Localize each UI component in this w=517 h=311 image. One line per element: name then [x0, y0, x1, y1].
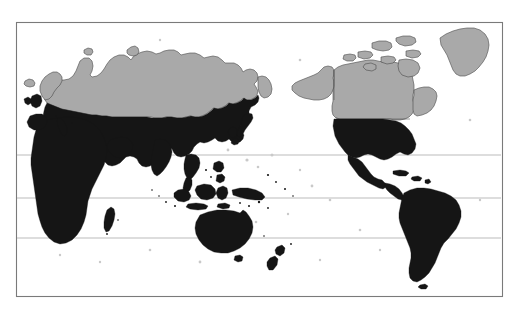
region-arctic-island-1	[372, 41, 392, 51]
faint-speck	[299, 59, 302, 62]
page-root	[0, 0, 517, 311]
island-speck	[210, 176, 212, 178]
world-map-svg	[0, 0, 517, 311]
island-speck	[267, 207, 269, 209]
faint-speck	[255, 221, 258, 224]
island-speck	[284, 188, 286, 190]
faint-speck	[149, 249, 152, 252]
faint-speck	[199, 261, 202, 264]
island-speck	[71, 122, 73, 124]
faint-speck	[227, 149, 230, 152]
region-philippines-1	[213, 161, 224, 172]
island-speck	[158, 195, 160, 197]
region-iberia	[27, 114, 47, 130]
faint-speck	[257, 166, 260, 169]
faint-speck	[379, 249, 381, 251]
faint-speck	[59, 254, 61, 256]
island-speck	[165, 201, 167, 203]
faint-speck	[299, 169, 301, 171]
island-speck	[258, 201, 260, 203]
island-speck	[292, 195, 294, 197]
island-speck	[267, 174, 269, 176]
region-sulawesi	[216, 186, 228, 200]
faint-speck	[359, 229, 362, 232]
island-speck	[106, 233, 108, 235]
island-speck	[290, 243, 292, 245]
region-arctic-island-6	[343, 54, 356, 61]
region-svalbard	[84, 48, 93, 55]
faint-speck	[99, 261, 101, 263]
faint-speck	[287, 213, 289, 215]
faint-speck	[245, 158, 248, 161]
faint-speck	[329, 199, 332, 202]
island-speck	[275, 181, 277, 183]
faint-speck	[319, 259, 321, 261]
island-speck	[55, 115, 57, 117]
faint-speck	[159, 39, 161, 41]
faint-speck	[311, 185, 314, 188]
faint-speck	[479, 199, 481, 201]
island-speck	[174, 205, 176, 207]
world-map-figure	[0, 0, 517, 311]
island-speck	[117, 219, 119, 221]
island-speck	[248, 205, 250, 207]
faint-speck	[271, 154, 274, 157]
island-speck	[239, 202, 241, 204]
island-speck	[263, 235, 265, 237]
island-speck	[151, 189, 153, 191]
island-speck	[205, 169, 207, 171]
region-british-isles	[30, 94, 42, 108]
faint-speck	[469, 119, 472, 122]
